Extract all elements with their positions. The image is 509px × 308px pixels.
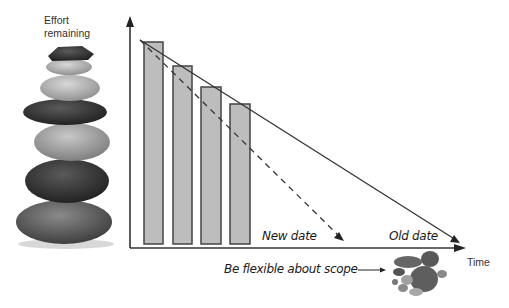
x-axis-label: Time <box>467 256 490 269</box>
bar-1 <box>144 42 163 244</box>
bar-4 <box>230 104 250 244</box>
bar-2 <box>173 66 192 244</box>
x-axis-arrow-icon <box>454 244 466 252</box>
y-axis-arrow-icon <box>126 16 134 27</box>
scope-arrow-icon <box>380 268 386 273</box>
old-date-label: Old date <box>389 229 438 243</box>
pebbles-illustration <box>392 251 447 296</box>
old-date-arrow-icon <box>450 235 460 243</box>
new-date-label: New date <box>262 229 317 243</box>
new-date-arrow-icon <box>334 232 344 241</box>
scope-note: Be flexible about scope <box>224 262 358 276</box>
